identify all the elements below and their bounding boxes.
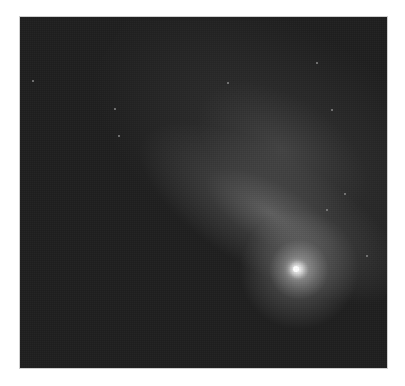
comet-photo xyxy=(20,17,387,368)
film-grain xyxy=(20,17,387,368)
